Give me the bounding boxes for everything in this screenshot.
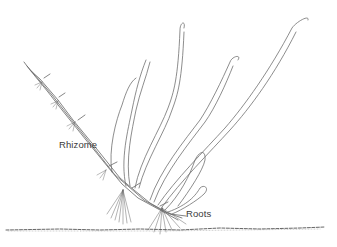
rhizome-stem [24,62,186,220]
shoots [111,18,308,214]
plant-illustration [0,0,337,247]
rhizome-label: Rhizome [59,139,97,150]
roots-label: Roots [186,208,211,219]
root-clusters [107,190,186,234]
node-roots [35,82,106,180]
